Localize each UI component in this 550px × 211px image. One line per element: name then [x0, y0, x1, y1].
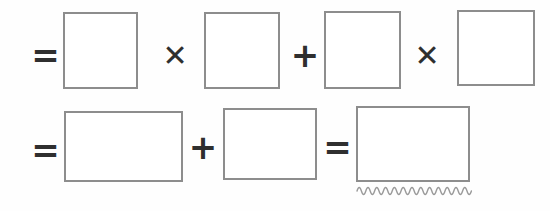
answer-box-2[interactable]	[204, 12, 280, 89]
plus-sign-row2: +	[188, 130, 218, 164]
plus-sign-row1: +	[290, 38, 320, 72]
answer-box-5[interactable]	[64, 111, 183, 182]
equals-sign-row1: =	[30, 38, 60, 72]
answer-box-1[interactable]	[63, 12, 138, 89]
answer-box-4[interactable]	[457, 10, 535, 86]
answer-box-6[interactable]	[223, 108, 317, 180]
multiplication-sign-row1-b: ✕	[412, 41, 442, 71]
worksheet-canvas: Equation row 1 = ✕ + ✕ Equation row 2 = …	[0, 0, 550, 211]
wavy-underline-icon	[356, 182, 474, 196]
answer-box-3[interactable]	[324, 11, 401, 89]
answer-box-7-final[interactable]	[356, 106, 470, 182]
multiplication-sign-row1-a: ✕	[160, 41, 190, 71]
equals-sign-row2-b: =	[322, 130, 352, 164]
equals-sign-row2-a: =	[30, 133, 60, 167]
